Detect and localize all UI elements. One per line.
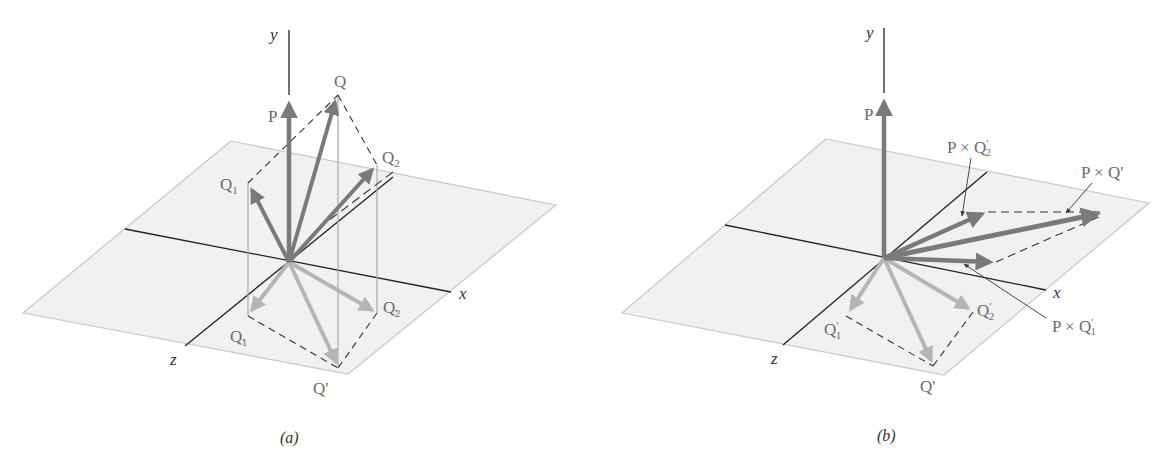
- caption-a: (a): [280, 429, 299, 447]
- label-q-prime: Q': [313, 379, 328, 398]
- y-axis-label: y: [864, 23, 874, 42]
- label-q1-prime: Q′1: [824, 319, 841, 341]
- x-axis-label: x: [1052, 283, 1061, 302]
- z-axis-label: z: [169, 350, 177, 369]
- dashed-q-q2: [338, 95, 377, 165]
- label-p-cross-q1-prime: P × Q′1: [1052, 316, 1096, 337]
- z-axis-label: z: [770, 349, 778, 368]
- label-q-prime: Q': [920, 377, 935, 396]
- panel-b: y x z P P × Q′2 P × Q' P × Q′1 Q′1 Q′2 Q…: [622, 23, 1149, 445]
- y-axis-label: y: [268, 25, 278, 44]
- label-p-cross-q2-prime: P × Q′2: [947, 137, 991, 158]
- caption-b: (b): [877, 427, 896, 445]
- label-p: P: [864, 105, 873, 124]
- label-p-cross-q-prime: P × Q': [1081, 163, 1123, 182]
- label-p: P: [268, 107, 277, 126]
- label-q2-prime: Q′2: [977, 300, 994, 322]
- cross-product-diagram: y x z P Q Q1 Q2 Q′1 Q′2 Q' (a): [0, 0, 1170, 460]
- label-q2: Q2: [382, 148, 400, 169]
- panel-a: y x z P Q Q1 Q2 Q′1 Q′2 Q' (a): [23, 25, 556, 447]
- x-axis-label: x: [458, 284, 467, 303]
- label-q: Q: [334, 72, 346, 91]
